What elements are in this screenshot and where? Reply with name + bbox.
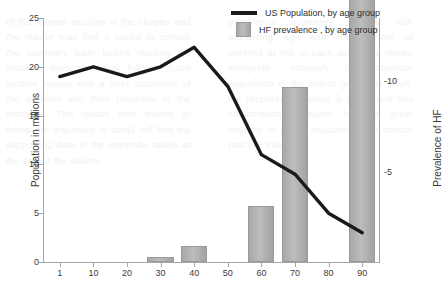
legend-label-us-population: US Population, by age group (265, 8, 380, 18)
x-tick-80 (329, 263, 330, 267)
y-left-tick-0 (39, 262, 43, 263)
legend-item-hf-prevalence: HF prevalence , by age group (231, 21, 380, 38)
chart-legend: US Population, by age group HF prevalenc… (231, 4, 380, 38)
x-tick-label-90: 90 (357, 268, 367, 278)
x-tick-label-50: 50 (223, 268, 233, 278)
y-left-tick-label-0: 0 (0, 257, 39, 267)
x-tick-1 (60, 263, 61, 267)
x-tick-30 (161, 263, 162, 267)
y-left-tick-20 (39, 67, 43, 68)
y-axis-right-title: Prevalence of HF (432, 109, 443, 186)
x-tick-40 (194, 263, 195, 267)
x-tick-60 (261, 263, 262, 267)
x-tick-label-80: 80 (324, 268, 334, 278)
legend-square-swatch-icon (236, 22, 251, 37)
plot-area: 0510152025 -5-10 1102030405060708090 Pop… (43, 18, 379, 262)
x-tick-10 (93, 263, 94, 267)
y-right-tick-label-5: -5 (384, 167, 414, 177)
x-tick-label-10: 10 (88, 268, 98, 278)
line-series-us-population (43, 18, 379, 262)
legend-item-us-population: US Population, by age group (231, 4, 380, 21)
x-tick-label-30: 30 (156, 268, 166, 278)
x-tick-label-40: 40 (189, 268, 199, 278)
y-left-tick-25 (39, 18, 43, 19)
x-tick-20 (127, 263, 128, 267)
y-right-tick-label-10: -10 (384, 76, 414, 86)
x-tick-70 (295, 263, 296, 267)
y-left-tick-5 (39, 213, 43, 214)
y-left-tick-label-5: 5 (0, 208, 39, 218)
x-tick-label-1: 1 (57, 268, 62, 278)
legend-line-swatch-icon (231, 11, 257, 15)
x-tick-label-60: 60 (256, 268, 266, 278)
x-tick-50 (228, 263, 229, 267)
y-axis-right-line (379, 18, 380, 262)
legend-label-hf-prevalence: HF prevalence , by age group (259, 25, 378, 35)
x-tick-label-20: 20 (122, 268, 132, 278)
y-axis-left-title: Population in millions (30, 93, 41, 187)
us-population-polyline (60, 47, 362, 232)
y-left-tick-label-20: 20 (0, 62, 39, 72)
x-tick-90 (362, 263, 363, 267)
y-left-tick-label-25: 25 (0, 13, 39, 23)
x-tick-label-70: 70 (290, 268, 300, 278)
